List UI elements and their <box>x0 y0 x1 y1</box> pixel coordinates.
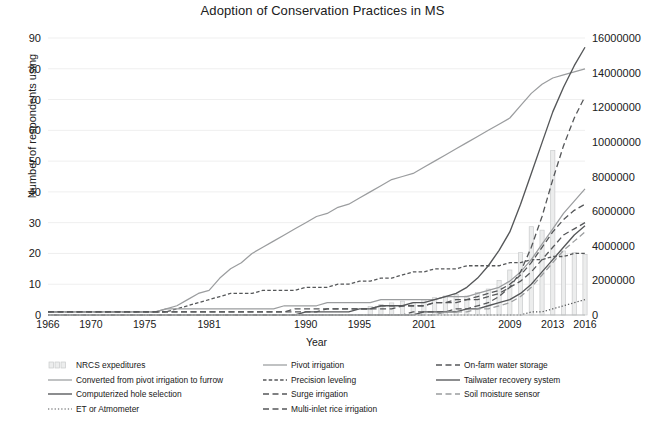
y-tick-left-90: 90 <box>0 32 41 44</box>
x-tick-1995: 1995 <box>348 318 371 330</box>
legend-item-multi-inlet-rice-irrigation[interactable]: Multi-inlet rice irrigation <box>262 402 442 417</box>
y-tick-right-2000000: 2000000 <box>592 274 645 286</box>
legend-item-tailwater-recovery-system[interactable]: Tailwater recovery system <box>435 373 635 388</box>
legend-item-computerized-hole-selection[interactable]: Computerized hole selection <box>47 387 262 402</box>
y-tick-left-0: 0 <box>0 309 41 321</box>
series-surge-irrigation <box>48 223 585 312</box>
legend-label-computerized-hole-selection: Computerized hole selection <box>76 390 182 398</box>
y-tick-right-0: 0 <box>592 309 645 321</box>
y-tick-left-70: 70 <box>0 94 41 106</box>
y-tick-right-14000000: 14000000 <box>592 67 645 79</box>
y-tick-right-10000000: 10000000 <box>592 136 645 148</box>
legend-label-multi-inlet-rice-irrigation: Multi-inlet rice irrigation <box>291 405 377 413</box>
line-series-group <box>48 47 585 315</box>
legend-item-et-or-atmometer[interactable]: ET or Atmometer <box>47 402 262 417</box>
x-tick-1990: 1990 <box>294 318 317 330</box>
legend-item-pivot-irrigation[interactable]: Pivot irrigation <box>262 358 442 373</box>
y-tick-right-8000000: 8000000 <box>592 171 645 183</box>
legend-swatch-computerized-hole-selection-icon <box>47 389 73 399</box>
gridlines <box>48 38 585 315</box>
y-tick-left-10: 10 <box>0 278 41 290</box>
legend-label-et-or-atmometer: ET or Atmometer <box>76 405 139 413</box>
x-axis-label: Year <box>48 336 585 348</box>
y-tick-right-16000000: 16000000 <box>592 32 645 44</box>
legend-label-converted-from-pivot-irrigation-to-furrow: Converted from pivot irrigation to furro… <box>76 376 223 384</box>
legend-column-3: On-farm water storageTailwater recovery … <box>435 358 635 402</box>
legend-swatch-precision-leveling-icon <box>262 375 288 385</box>
x-tick-1966: 1966 <box>36 318 59 330</box>
y-tick-right-4000000: 4000000 <box>592 240 645 252</box>
legend-swatch-tailwater-recovery-system-icon <box>435 375 461 385</box>
series-pivot-irrigation <box>48 69 585 312</box>
legend-label-surge-irrigation: Surge irrigation <box>291 390 348 398</box>
series-computerized-hole-selection <box>48 47 585 315</box>
y-tick-left-50: 50 <box>0 155 41 167</box>
x-tick-2001: 2001 <box>412 318 435 330</box>
y-tick-right-12000000: 12000000 <box>592 101 645 113</box>
legend-item-surge-irrigation[interactable]: Surge irrigation <box>262 387 442 402</box>
legend-label-soil-moisture-sensor: Soil moisture sensor <box>464 390 540 398</box>
legend-swatch-pivot-irrigation-icon <box>262 360 288 370</box>
legend-label-nrcs-expeditures: NRCS expeditures <box>76 361 145 369</box>
legend-swatch-et-or-atmometer-icon <box>47 404 73 414</box>
series-tailwater-recovery-system <box>48 226 585 315</box>
legend-label-pivot-irrigation: Pivot irrigation <box>291 361 344 369</box>
legend-label-tailwater-recovery-system: Tailwater recovery system <box>464 376 560 384</box>
series-et-or-atmometer <box>48 300 585 315</box>
legend-item-nrcs-expeditures[interactable]: NRCS expeditures <box>47 358 262 373</box>
legend-swatch-multi-inlet-rice-irrigation-icon <box>262 404 288 414</box>
series-precision-leveling <box>48 253 585 311</box>
legend-swatch-soil-moisture-sensor-icon <box>435 389 461 399</box>
series-multi-inlet-rice-irrigation <box>48 204 585 312</box>
y-tick-left-30: 30 <box>0 217 41 229</box>
legend-item-on-farm-water-storage[interactable]: On-farm water storage <box>435 358 635 373</box>
x-tick-1975: 1975 <box>133 318 156 330</box>
x-tick-1970: 1970 <box>79 318 102 330</box>
legend-item-soil-moisture-sensor[interactable]: Soil moisture sensor <box>435 387 635 402</box>
y-tick-left-40: 40 <box>0 186 41 198</box>
series-soil-moisture-sensor <box>48 232 585 315</box>
legend-label-on-farm-water-storage: On-farm water storage <box>464 361 548 369</box>
y-tick-right-6000000: 6000000 <box>592 205 645 217</box>
x-tick-2013: 2013 <box>541 318 564 330</box>
y-tick-left-80: 80 <box>0 63 41 75</box>
legend-swatch-on-farm-water-storage-icon <box>435 360 461 370</box>
legend-column-2: Pivot irrigationPrecision levelingSurge … <box>262 358 442 416</box>
x-tick-1981: 1981 <box>197 318 220 330</box>
legend-label-precision-leveling: Precision leveling <box>291 376 356 384</box>
chart-legend: NRCS expedituresConverted from pivot irr… <box>47 358 637 418</box>
legend-swatch-surge-irrigation-icon <box>262 389 288 399</box>
series-converted-from-pivot-irrigation-to-furrow <box>48 189 585 312</box>
series-on-farm-water-storage <box>48 96 585 315</box>
legend-item-converted-from-pivot-irrigation-to-furrow[interactable]: Converted from pivot irrigation to furro… <box>47 373 262 388</box>
x-tick-2016: 2016 <box>573 318 596 330</box>
legend-swatch-converted-from-pivot-irrigation-to-furrow-icon <box>47 375 73 385</box>
chart-container: Adoption of Conservation Practices in MS… <box>0 0 645 421</box>
legend-item-precision-leveling[interactable]: Precision leveling <box>262 373 442 388</box>
x-tick-2009: 2009 <box>498 318 521 330</box>
legend-column-1: NRCS expedituresConverted from pivot irr… <box>47 358 262 416</box>
y-tick-left-20: 20 <box>0 247 41 259</box>
legend-swatch-nrcs-expeditures-icon <box>47 360 73 370</box>
y-tick-left-60: 60 <box>0 124 41 136</box>
